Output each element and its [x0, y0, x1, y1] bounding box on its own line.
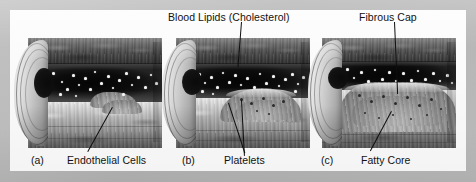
- vessel-illustration-c: [308, 38, 456, 148]
- lumen-opening-c: [328, 67, 348, 89]
- right-cut-edge-c: [447, 42, 456, 142]
- label-fibrous-cap: Fibrous Cap: [359, 11, 417, 23]
- label-blood-lipids: Blood Lipids (Cholesterol): [168, 11, 290, 23]
- label-platelets: Platelets: [224, 154, 265, 166]
- lumen-opening-a: [34, 68, 54, 98]
- vessel-illustration-b: [162, 38, 310, 148]
- label-endothelial-cells: Endothelial Cells: [67, 154, 146, 166]
- artery-cut-face-c: [308, 40, 342, 146]
- panel-letter-b: (b): [182, 154, 195, 166]
- cut-face-shading-c: [308, 40, 342, 146]
- artery-tube-c: [322, 38, 456, 148]
- lipid-speckles-c: [322, 38, 456, 148]
- lumen-opening-b: [182, 69, 202, 95]
- panel-letter-a: (a): [31, 154, 44, 166]
- figure-page: Blood Lipids (Cholesterol) Fibrous Cap (…: [10, 10, 466, 171]
- panel-letter-c: (c): [321, 154, 333, 166]
- figure-root: Blood Lipids (Cholesterol) Fibrous Cap (…: [0, 0, 476, 182]
- vessel-illustration-a: [14, 38, 162, 148]
- label-fatty-core: Fatty Core: [361, 154, 411, 166]
- right-cut-edge-a: [153, 42, 162, 142]
